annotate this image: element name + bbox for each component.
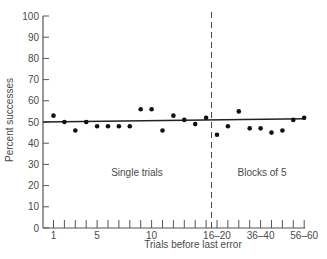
y-tick-label: 30 <box>28 159 40 170</box>
data-point <box>62 120 67 125</box>
y-tick-label: 10 <box>28 201 40 212</box>
data-point <box>95 124 100 129</box>
data-point <box>73 128 78 133</box>
y-axis-label: Percent successes <box>4 78 15 162</box>
data-point <box>128 124 133 129</box>
y-tick-label: 40 <box>28 138 40 149</box>
y-tick-label: 50 <box>28 117 40 128</box>
x-tick-label: 56–60 <box>290 230 318 241</box>
chart: 0102030405060708090100 151016–2036–4056–… <box>0 0 327 259</box>
data-point <box>226 124 231 129</box>
x-tick-label: 1 <box>51 230 57 241</box>
y-tick-label: 90 <box>28 32 40 43</box>
x-tick-label: 36–40 <box>247 230 275 241</box>
data-point <box>171 113 176 118</box>
y-tick-label: 60 <box>28 95 40 106</box>
data-point <box>302 115 307 120</box>
annotation-blocks-of-5: Blocks of 5 <box>238 167 287 178</box>
x-axis-label: Trials before last error <box>144 239 242 250</box>
data-point <box>84 120 89 125</box>
data-point <box>182 118 187 123</box>
y-tick-label: 100 <box>22 11 39 22</box>
data-point <box>160 128 165 133</box>
x-axis: 151016–2036–4056–60 <box>43 220 319 241</box>
data-point <box>247 126 252 131</box>
data-point <box>193 122 198 127</box>
x-tick-label: 5 <box>94 230 100 241</box>
data-point <box>258 126 263 131</box>
y-tick-label: 20 <box>28 180 40 191</box>
y-tick-label: 70 <box>28 74 40 85</box>
annotation-single-trials: Single trials <box>111 167 163 178</box>
data-point <box>106 124 111 129</box>
data-point <box>117 124 122 129</box>
data-point <box>280 128 285 133</box>
data-point <box>215 132 220 137</box>
data-point <box>138 107 143 112</box>
data-point <box>269 130 274 135</box>
trend-line <box>43 119 305 122</box>
data-point <box>291 118 296 123</box>
data-point <box>237 109 242 114</box>
y-tick-label: 80 <box>28 53 40 64</box>
y-tick-label: 0 <box>33 223 39 234</box>
data-point <box>204 115 209 120</box>
data-point <box>149 107 154 112</box>
data-point <box>51 113 56 118</box>
